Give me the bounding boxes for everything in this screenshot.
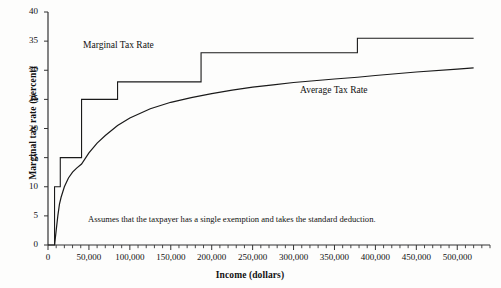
chart-plot-area <box>0 0 501 288</box>
y-tick-label: 40 <box>12 6 38 16</box>
tax-rate-chart-figure: 0510152025303540 050,000100,000150,00020… <box>0 0 501 288</box>
assumption-note: Assumes that the taxpayer has a single e… <box>88 214 376 224</box>
y-axis-title: Marginal tax rate (percent) <box>28 38 38 208</box>
x-tick-label: 500,000 <box>427 252 487 262</box>
y-tick-label: 5 <box>12 210 38 220</box>
y-tick-label: 0 <box>12 239 38 249</box>
average-series-label: Average Tax Rate <box>300 85 368 95</box>
marginal-series-label: Marginal Tax Rate <box>83 40 154 50</box>
x-axis-major-ticks <box>48 245 457 250</box>
x-axis-title: Income (dollars) <box>150 270 350 280</box>
